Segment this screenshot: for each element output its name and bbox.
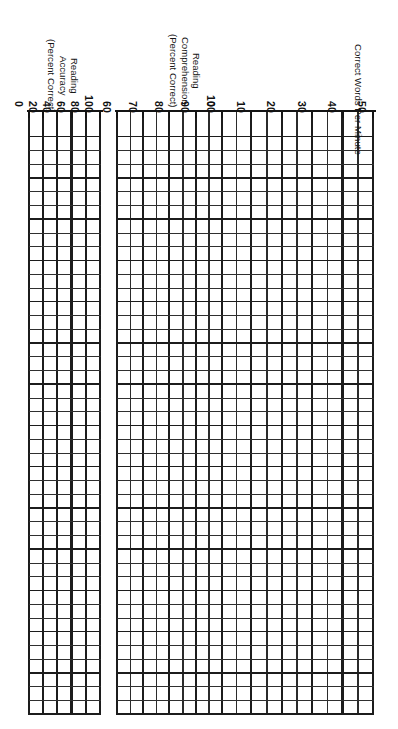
plot-area-reading-accuracy xyxy=(30,111,101,715)
gridline-session xyxy=(29,342,101,344)
gridline-session xyxy=(29,453,101,454)
gridline-session xyxy=(29,631,101,633)
gridline-value xyxy=(99,111,101,715)
gridline-session xyxy=(29,700,101,701)
gridline-session xyxy=(29,576,101,577)
gridline-session xyxy=(29,507,101,509)
gridline-session xyxy=(29,301,101,303)
gridline-session xyxy=(29,260,101,262)
gridline-session xyxy=(29,590,101,592)
gridline-session xyxy=(29,150,101,151)
gridline-session xyxy=(29,713,101,715)
gridline-value xyxy=(42,111,44,715)
gridline-value xyxy=(56,111,58,715)
gridline-session xyxy=(29,659,101,660)
axis-tick-label: 100 xyxy=(84,95,96,113)
gridline-session xyxy=(29,439,101,440)
axis-tick-label: 0 xyxy=(13,101,25,107)
axis-title-reading-accuracy: Reading Accuracy (Percent Correct) xyxy=(46,39,80,113)
gridline-session xyxy=(29,411,101,412)
gridline-session xyxy=(29,315,101,316)
gridline-session xyxy=(29,370,101,371)
gridline-session xyxy=(29,672,101,674)
gridline-session xyxy=(29,548,101,550)
gridline-session xyxy=(29,356,101,357)
gridline-session xyxy=(29,136,101,138)
axis-title-line: Reading xyxy=(69,39,80,113)
gridline-session xyxy=(29,480,101,481)
axis-title-line: Accuracy xyxy=(57,39,68,113)
chart-page: 50 40 30 20 10 0 Correct Words Per Minut… xyxy=(0,0,398,729)
gridline-session xyxy=(29,218,101,220)
gridline-session xyxy=(29,563,101,564)
gridline-session xyxy=(29,645,101,646)
gridline-session xyxy=(29,521,101,522)
gridline-session xyxy=(29,164,101,165)
gridline-session xyxy=(29,604,101,605)
gridline-session xyxy=(29,494,101,495)
gridline-value xyxy=(70,111,72,715)
gridline-session xyxy=(29,398,101,399)
gridline-session xyxy=(29,233,101,234)
gridline-session xyxy=(29,191,101,192)
gridline-session xyxy=(29,177,101,179)
gridline-session xyxy=(29,466,101,468)
chart-reading-accuracy: 100 80 60 40 20 0 Reading Accuracy (Perc… xyxy=(0,0,398,729)
gridline-session xyxy=(29,686,101,687)
gridline-session xyxy=(29,246,101,247)
gridline-session xyxy=(29,383,101,385)
axis-tick xyxy=(99,111,101,118)
gridline-session xyxy=(29,425,101,427)
axis-title-line: (Percent Correct) xyxy=(46,39,57,113)
gridline-session xyxy=(29,329,101,330)
scanned-sheet: 50 40 30 20 10 0 Correct Words Per Minut… xyxy=(0,0,398,729)
gridline-value xyxy=(28,111,30,715)
gridline-session xyxy=(29,205,101,206)
gridline-session xyxy=(29,288,101,289)
gridline-value xyxy=(85,111,87,715)
axis-tick-label: 20 xyxy=(27,101,39,113)
gridline-session xyxy=(29,535,101,536)
gridline-session xyxy=(29,274,101,275)
gridline-session xyxy=(29,618,101,619)
